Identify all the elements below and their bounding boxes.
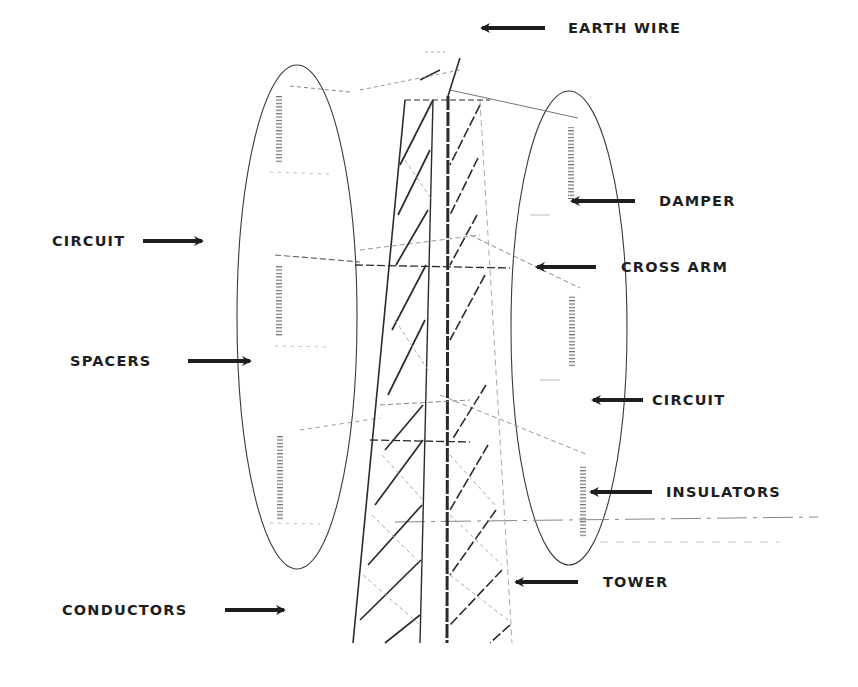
label-earth-wire: EARTH WIRE: [568, 21, 681, 36]
label-circuit-right: CIRCUIT: [652, 393, 725, 408]
left-insulator-strings: [270, 86, 380, 524]
label-tower: TOWER: [603, 575, 668, 590]
label-circuit-left: CIRCUIT: [52, 234, 125, 249]
label-spacers: SPACERS: [70, 354, 152, 369]
label-insulators: INSULATORS: [666, 485, 781, 500]
label-conductors: CONDUCTORS: [62, 603, 187, 618]
tower: [353, 52, 512, 643]
transmission-tower-diagram: EARTH WIRE DAMPER CROSS ARM CIRCUIT SPAC…: [0, 0, 858, 687]
left-circuit-ellipse: [237, 65, 357, 569]
conductor-line: [395, 517, 818, 542]
right-insulator-strings: [440, 90, 588, 537]
label-damper: DAMPER: [659, 194, 736, 209]
label-cross-arm: CROSS ARM: [621, 260, 728, 275]
